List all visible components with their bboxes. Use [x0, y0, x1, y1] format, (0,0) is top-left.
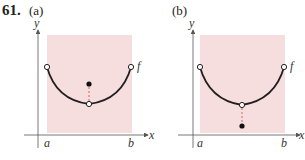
open-endpoint-right: [128, 64, 133, 69]
problem-number: 61.: [2, 2, 21, 18]
figure: 61. (a) (b) y x a b f y x a b: [0, 0, 305, 160]
open-point-minimum: [86, 101, 91, 106]
y-axis-label: y: [188, 16, 195, 30]
panel-b: y x a b f: [178, 16, 305, 150]
x-axis-label: x: [148, 128, 155, 142]
a-label: a: [197, 136, 203, 150]
b-label: b: [281, 136, 287, 150]
isolated-point-above: [86, 81, 91, 86]
open-point-minimum: [239, 102, 244, 107]
open-endpoint-right: [281, 64, 286, 69]
panel-b-label: (b): [172, 3, 187, 18]
function-label-f: f: [137, 59, 142, 73]
panel-a: y x a b f: [24, 16, 155, 150]
open-endpoint-left: [44, 64, 49, 69]
open-endpoint-left: [197, 64, 202, 69]
shaded-interval-region: [200, 35, 285, 133]
y-axis-label: y: [33, 16, 40, 30]
x-axis-label: x: [298, 128, 305, 142]
isolated-point-below: [239, 123, 244, 128]
a-label: a: [44, 136, 50, 150]
function-label-f: f: [290, 59, 295, 73]
b-label: b: [128, 136, 134, 150]
